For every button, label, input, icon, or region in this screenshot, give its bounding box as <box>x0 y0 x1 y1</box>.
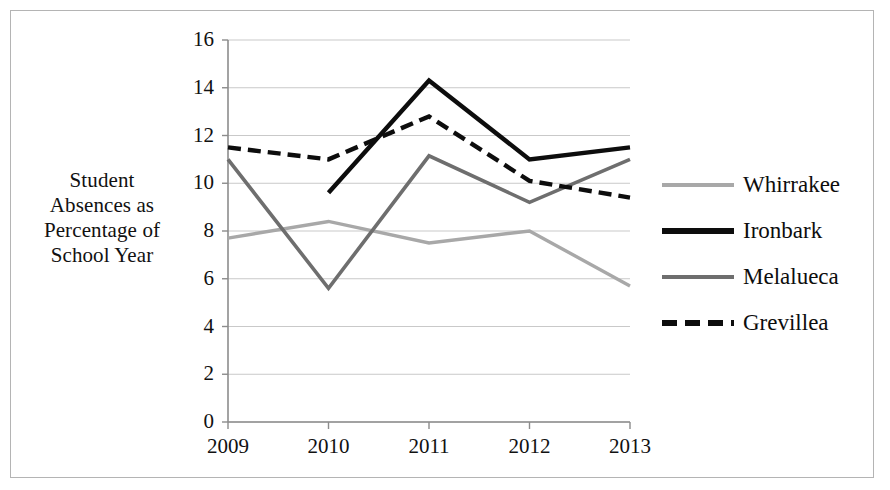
legend-item-ironbark[interactable]: Ironbark <box>662 208 872 254</box>
y-tick-label-10: 10 <box>174 170 214 195</box>
x-tick-label-2009: 2009 <box>188 434 268 459</box>
y-tick-label-2: 2 <box>174 361 214 386</box>
y-axis-title-line-1: Student <box>18 168 186 193</box>
chart-legend: WhirrakeeIronbarkMelaluecaGrevillea <box>662 162 872 346</box>
legend-item-whirrakee[interactable]: Whirrakee <box>662 162 872 208</box>
y-tick-label-16: 16 <box>174 27 214 52</box>
plot-area: 0246810121416 20092010201120122013 <box>190 24 650 444</box>
y-tick-label-14: 14 <box>174 75 214 100</box>
y-axis-title-line-2: Absences as <box>18 193 186 218</box>
series-line-ironbark <box>329 81 631 193</box>
legend-item-grevillea[interactable]: Grevillea <box>662 300 872 346</box>
legend-swatch-ironbark <box>662 224 734 238</box>
gridlines <box>228 40 630 422</box>
x-tick-label-2011: 2011 <box>389 434 469 459</box>
y-axis-title-line-4: School Year <box>18 243 186 268</box>
y-axis-title-line-3: Percentage of <box>18 218 186 243</box>
legend-item-melalueca[interactable]: Melalueca <box>662 254 872 300</box>
chart-figure: Student Absences as Percentage of School… <box>0 0 890 490</box>
series-lines <box>228 81 630 289</box>
y-tick-label-0: 0 <box>174 409 214 434</box>
series-line-melalueca <box>228 156 630 289</box>
y-tick-label-8: 8 <box>174 218 214 243</box>
y-axis-title: Student Absences as Percentage of School… <box>18 168 186 268</box>
legend-label-whirrakee: Whirrakee <box>743 173 840 197</box>
y-tick-label-12: 12 <box>174 123 214 148</box>
legend-label-grevillea: Grevillea <box>743 311 829 335</box>
legend-label-melalueca: Melalueca <box>743 265 839 289</box>
plot-svg <box>190 24 650 444</box>
axis-ticks <box>222 40 630 429</box>
x-tick-label-2010: 2010 <box>289 434 369 459</box>
legend-swatch-grevillea <box>662 316 734 330</box>
legend-label-ironbark: Ironbark <box>743 219 822 243</box>
y-tick-label-6: 6 <box>174 266 214 291</box>
y-tick-label-4: 4 <box>174 314 214 339</box>
x-tick-label-2012: 2012 <box>490 434 570 459</box>
x-tick-label-2013: 2013 <box>590 434 670 459</box>
legend-swatch-whirrakee <box>662 178 734 192</box>
legend-swatch-melalueca <box>662 270 734 284</box>
